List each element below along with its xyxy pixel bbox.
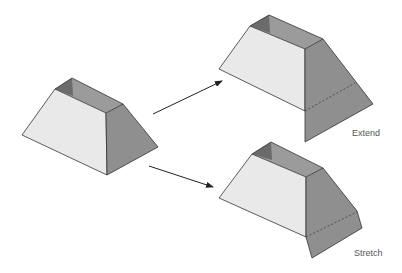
diagram-canvas: Extend Stretch xyxy=(0,0,402,273)
arrow-to-stretch xyxy=(149,166,213,187)
stretch-right-face xyxy=(306,168,362,258)
stretch-label: Stretch xyxy=(354,248,383,258)
extend-right-face xyxy=(305,39,373,142)
extend-label: Extend xyxy=(352,128,380,138)
stretch-shape xyxy=(219,142,362,258)
extend-shape xyxy=(219,15,373,142)
arrow-to-extend xyxy=(153,81,222,114)
original-right-face xyxy=(106,104,158,175)
original-shape xyxy=(22,78,158,175)
